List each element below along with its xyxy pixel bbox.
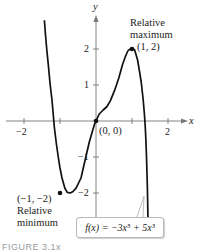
origin-point	[94, 119, 99, 124]
x-tick-label-2: 2	[165, 127, 170, 137]
callout-pointer	[137, 196, 144, 217]
x-tick-label-neg2: −2	[16, 127, 27, 137]
max-coord-label: (1, 2)	[137, 41, 160, 52]
x-axis-arrow-icon	[181, 119, 188, 124]
relative-minimum-point	[58, 191, 63, 196]
min-coord-label: (−1, −2)	[17, 193, 52, 204]
y-axis-label: y	[93, 1, 98, 12]
y-tick-label-neg2: −2	[78, 188, 89, 198]
y-axis-arrow-icon	[94, 15, 99, 22]
origin-coord-label: (0, 0)	[99, 125, 122, 136]
max-label-line2: maximum	[130, 29, 173, 40]
min-label-line1: Relative	[17, 205, 52, 216]
function-equation-callout: f(x) = −3x⁵ + 5x³	[76, 217, 164, 238]
y-tick-label-2: 2	[84, 44, 89, 54]
relative-maximum-point	[130, 47, 135, 52]
min-label-line2: minimum	[17, 217, 58, 228]
x-axis-label: x	[189, 115, 194, 126]
y-tick-label-1: 1	[84, 80, 89, 90]
figure-caption: FIGURE 3.1x	[2, 242, 61, 252]
y-tick-label-neg1: −1	[78, 152, 89, 162]
max-label-line1: Relative	[130, 17, 165, 28]
